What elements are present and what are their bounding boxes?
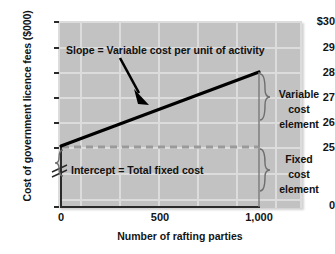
gridline-horizontal [58, 199, 302, 201]
variable-cost-element-line-1: Variable [268, 87, 330, 102]
gridline-horizontal [58, 21, 302, 23]
y-axis-title: Cost of government licence fees ($000) [21, 6, 33, 206]
intercept-annotation-label: Intercept = Total fixed cost [71, 164, 204, 176]
x-axis-line [60, 206, 260, 208]
fixed-cost-element-line-2: cost [268, 167, 330, 182]
y-tick-mark [54, 21, 59, 23]
gridline-horizontal [58, 122, 302, 124]
cost-behaviour-chart: Cost of government licence fees ($000) $… [0, 0, 335, 254]
variable-cost-element-label: Variable cost element [268, 87, 330, 132]
y-tick-mark [54, 147, 59, 149]
fixed-cost-element-line-1: Fixed [268, 152, 330, 167]
gridline-horizontal [58, 72, 302, 74]
y-tick-label: 28 [281, 66, 335, 78]
gridline-horizontal [58, 97, 302, 99]
variable-cost-element-line-2: cost [268, 102, 330, 117]
x-tick-label: 0 [31, 211, 91, 223]
fixed-cost-element-label: Fixed cost element [268, 152, 330, 197]
y-tick-mark [54, 122, 59, 124]
y-tick-label: $30 [281, 15, 335, 27]
x-tick-label: 1,000 [229, 211, 289, 223]
y-tick-mark [54, 206, 59, 208]
x-tick-label: 500 [130, 211, 190, 223]
slope-annotation-label: Slope = Variable cost per unit of activi… [66, 44, 265, 56]
y-tick-mark [54, 72, 59, 74]
y-tick-mark [54, 97, 59, 99]
variable-cost-element-line-3: element [268, 117, 330, 132]
y-tick-mark [54, 47, 59, 49]
fixed-cost-element-line-3: element [268, 182, 330, 197]
y-tick-label: 29 [281, 41, 335, 53]
gridline-horizontal [58, 147, 302, 149]
y-tick-label: 0 [281, 199, 335, 211]
y-axis-break-icon [51, 163, 71, 179]
x-axis-title: Number of rafting parties [58, 230, 302, 242]
